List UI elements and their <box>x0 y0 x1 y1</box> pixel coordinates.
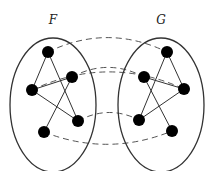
isomorphism-diagram: F G <box>0 0 210 171</box>
node-f5 <box>38 126 50 138</box>
graph-label-f: F <box>48 13 58 27</box>
node-f2 <box>66 71 78 83</box>
graph-nodes <box>26 46 190 138</box>
node-g4 <box>133 114 145 126</box>
edge-g2-g5 <box>144 77 172 131</box>
mapping-f3-g3 <box>32 72 184 90</box>
node-g2 <box>138 71 150 83</box>
set-labels: F G <box>48 13 166 27</box>
graph-edges <box>32 52 184 132</box>
set-ellipses <box>10 38 204 171</box>
node-g3 <box>178 83 190 95</box>
node-f1 <box>42 46 54 58</box>
graph-label-g: G <box>156 13 166 27</box>
edge-g2-g3 <box>144 77 184 89</box>
node-f3 <box>26 84 38 96</box>
mapping-f4-g4 <box>78 112 139 121</box>
node-g5 <box>166 125 178 137</box>
node-g1 <box>161 46 173 58</box>
node-f4 <box>72 115 84 127</box>
mapping-f2-g2 <box>72 67 144 77</box>
mapping-f5-g5 <box>44 131 172 144</box>
mapping-lines <box>32 38 184 145</box>
